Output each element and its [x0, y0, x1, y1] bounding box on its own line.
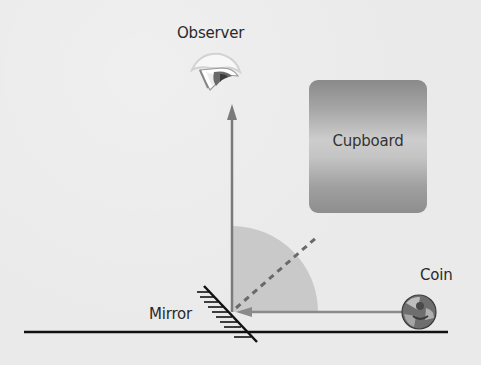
observer-label: Observer [177, 24, 244, 42]
coin-label: Coin [420, 266, 453, 284]
mirror-label: Mirror [149, 305, 192, 323]
cupboard: Cupboard [309, 80, 427, 213]
eye-icon [192, 54, 240, 90]
diagram-canvas: Cupboard Observer Mirror Coin [0, 0, 481, 365]
cupboard-label: Cupboard [332, 132, 403, 150]
reflected-ray-arrowhead [227, 104, 237, 120]
coin-icon [402, 295, 436, 329]
